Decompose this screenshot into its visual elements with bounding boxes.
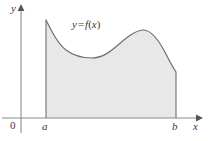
origin-label: 0 <box>10 120 16 131</box>
y-axis-arrowhead-icon <box>18 4 25 11</box>
x-axis-label: x <box>193 121 198 132</box>
curve-label-close-paren: ) <box>97 18 101 30</box>
shaded-area-region <box>46 20 176 118</box>
figure-container: y x 0 a b y=f(x) <box>0 0 208 141</box>
y-axis-label: y <box>11 3 16 14</box>
lower-limit-tick-label: a <box>42 121 48 132</box>
curve-label-equals: = <box>77 18 85 30</box>
upper-limit-tick-label: b <box>172 121 178 132</box>
curve-equation-label: y=f(x) <box>72 19 100 30</box>
